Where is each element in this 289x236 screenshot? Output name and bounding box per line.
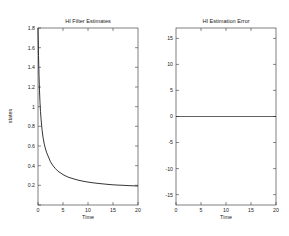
y-tick-label: 10 <box>167 61 173 67</box>
x-tick-label: 0 <box>175 207 178 213</box>
y-tick-label: 0.2 <box>28 182 35 188</box>
y-tick-label: -10 <box>166 166 174 172</box>
x-axis-label: Time <box>220 214 232 220</box>
plot-title: HI Estimation Error <box>202 18 249 24</box>
y-axis-label: states <box>7 109 13 124</box>
y-tick-label: 0.6 <box>28 143 35 149</box>
y-tick-label: 1.4 <box>28 64 35 70</box>
x-tick-label: 10 <box>85 207 91 213</box>
y-tick-label: 0.4 <box>28 163 35 169</box>
x-tick-label: 5 <box>62 207 65 213</box>
x-tick-label: 5 <box>200 207 203 213</box>
y-tick-marks <box>38 28 138 205</box>
x-tick-labels: 0 5 10 15 20 <box>175 207 279 213</box>
x-tick-label: 15 <box>248 207 254 213</box>
x-tick-label: 0 <box>37 207 40 213</box>
y-tick-label: -15 <box>166 192 174 198</box>
y-tick-label: 1.8 <box>28 25 35 31</box>
x-tick-marks <box>38 28 138 205</box>
x-axis-label: Time <box>82 214 94 220</box>
series-state-estimate <box>38 28 138 186</box>
hi-estimation-error-svg: HI Estimation Error -15 <box>146 0 289 236</box>
plot-panel-hi-estimation-error: HI Estimation Error -15 <box>146 0 289 236</box>
y-tick-label: 0.8 <box>28 123 35 129</box>
y-tick-label: 1.2 <box>28 84 35 90</box>
plot-panel-hi-filter-estimates: HI Filter Estimates <box>0 0 146 236</box>
figure-canvas: HI Filter Estimates <box>0 0 289 236</box>
y-tick-labels: 0.2 0.4 0.6 0.8 1 1.2 1.4 1.6 1.8 <box>28 25 35 188</box>
x-tick-label: 10 <box>223 207 229 213</box>
y-tick-label: 1.6 <box>28 45 35 51</box>
y-tick-label: 15 <box>167 35 173 41</box>
x-tick-label: 15 <box>110 207 116 213</box>
y-tick-label: -5 <box>168 139 173 145</box>
y-tick-label: 5 <box>170 87 173 93</box>
x-tick-label: 20 <box>135 207 141 213</box>
y-tick-label: 1 <box>32 104 35 110</box>
x-tick-labels: 0 5 10 15 20 <box>37 207 141 213</box>
x-tick-label: 20 <box>273 207 279 213</box>
plot-title: HI Filter Estimates <box>65 18 111 24</box>
y-tick-labels: -15 -10 -5 0 5 10 15 <box>166 35 174 197</box>
y-tick-label: 0 <box>170 113 173 119</box>
hi-filter-estimates-svg: HI Filter Estimates <box>0 0 146 236</box>
axes-frame <box>38 28 138 205</box>
